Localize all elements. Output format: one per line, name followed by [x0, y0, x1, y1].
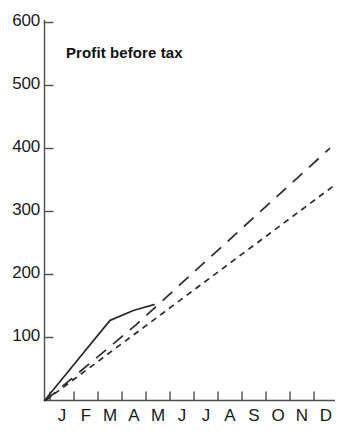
x-axis-tick-label: J	[171, 406, 193, 426]
x-axis-tick-label: M	[147, 406, 169, 426]
y-axis-tick-label: 400	[0, 137, 40, 157]
chart-container: Profit before tax 600500400300200100 JFM…	[0, 0, 349, 431]
x-axis-tick-label: D	[315, 406, 337, 426]
x-axis-tick-label: S	[243, 406, 265, 426]
x-axis-ticks	[50, 392, 314, 401]
y-axis-tick-label: 300	[0, 200, 40, 220]
y-axis-tick-label: 100	[0, 326, 40, 346]
y-axis-tick-label: 200	[0, 263, 40, 283]
x-axis-tick-label: M	[99, 406, 121, 426]
x-axis-tick-label: O	[267, 406, 289, 426]
x-axis-tick-label: N	[291, 406, 313, 426]
chart-title: Profit before tax	[66, 44, 183, 61]
x-axis-tick-label: J	[195, 406, 217, 426]
y-axis-tick-label: 600	[0, 11, 40, 31]
y-axis-tick-label: 500	[0, 74, 40, 94]
line-chart-plot	[0, 0, 349, 431]
y-axis-ticks	[45, 23, 54, 338]
x-axis-tick-label: A	[219, 406, 241, 426]
series-line-forecast-upper	[46, 148, 331, 400]
series-line-actual	[45, 305, 155, 401]
x-axis-tick-label: A	[123, 406, 145, 426]
x-axis-tick-label: J	[51, 406, 73, 426]
series-line-forecast-lower	[46, 184, 337, 400]
x-axis-tick-label: F	[75, 406, 97, 426]
